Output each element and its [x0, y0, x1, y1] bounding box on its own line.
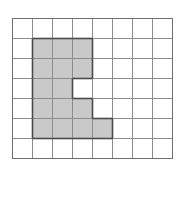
grid-cell-empty: [152, 118, 172, 138]
grid-cell-empty: [132, 18, 152, 38]
grid-canvas: [0, 0, 183, 203]
grid-cell-empty: [152, 98, 172, 118]
grid-cell-empty: [52, 18, 72, 38]
grid-cell-empty: [92, 38, 112, 58]
grid-cell-empty: [132, 118, 152, 138]
grid-cell-empty: [12, 18, 32, 38]
grid-cell-filled: [72, 58, 92, 78]
grid-cell-empty: [12, 138, 32, 158]
puzzle-figure: [0, 0, 183, 203]
grid-cell-filled: [32, 78, 52, 98]
grid-cell-filled: [52, 58, 72, 78]
grid-cell-empty: [112, 98, 132, 118]
grid-cell-empty: [92, 78, 112, 98]
grid-cell-filled: [92, 118, 112, 138]
grid-cell-empty: [72, 18, 92, 38]
grid-cell-empty: [92, 58, 112, 78]
grid-cell-empty: [12, 38, 32, 58]
grid-cell-filled: [32, 58, 52, 78]
grid-cell-empty: [132, 58, 152, 78]
grid-cell-empty: [112, 18, 132, 38]
grid-cell-empty: [152, 138, 172, 158]
grid-cell-empty: [52, 138, 72, 158]
grid-cell-empty: [72, 78, 92, 98]
grid-cell-filled: [72, 38, 92, 58]
grid-cell-empty: [92, 98, 112, 118]
grid-cell-empty: [132, 38, 152, 58]
grid-cell-empty: [12, 58, 32, 78]
grid-cell-empty: [112, 118, 132, 138]
grid-cell-empty: [152, 78, 172, 98]
grid-cell-empty: [32, 18, 52, 38]
grid-cell-empty: [112, 78, 132, 98]
grid-cell-empty: [12, 118, 32, 138]
grid-cell-filled: [32, 118, 52, 138]
grid-cell-filled: [52, 78, 72, 98]
grid-cell-empty: [132, 98, 152, 118]
grid-cell-filled: [32, 38, 52, 58]
grid-cell-empty: [152, 58, 172, 78]
grid-cell-empty: [112, 58, 132, 78]
grid-cell-empty: [112, 138, 132, 158]
grid-cell-empty: [152, 38, 172, 58]
grid-cell-filled: [72, 98, 92, 118]
grid-cell-empty: [12, 78, 32, 98]
grid-cell-filled: [52, 98, 72, 118]
grid-cell-empty: [152, 18, 172, 38]
grid-cell-empty: [92, 18, 112, 38]
grid-cell-empty: [132, 138, 152, 158]
grid-cell-empty: [72, 138, 92, 158]
grid-cell-empty: [112, 38, 132, 58]
grid-cell-filled: [52, 118, 72, 138]
grid-cell-filled: [72, 118, 92, 138]
grid-cell-filled: [32, 98, 52, 118]
grid-cell-empty: [92, 138, 112, 158]
grid-cell-empty: [12, 98, 32, 118]
grid-cell-empty: [32, 138, 52, 158]
grid-cell-empty: [132, 78, 152, 98]
grid-cell-filled: [52, 38, 72, 58]
